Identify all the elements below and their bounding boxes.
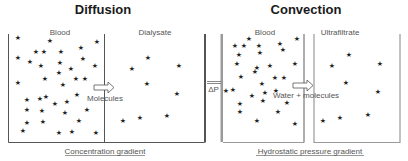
star-icon: ★	[294, 35, 300, 43]
star-icon: ★	[24, 119, 30, 127]
star-icon: ★	[15, 54, 21, 62]
star-icon: ★	[39, 107, 45, 115]
diffusion-blood-solutes: ★★★★★★★★★★★★★★★★★★★★★★★★★★★★★★★★★★★★★	[15, 34, 100, 137]
convection-title: Convection	[271, 2, 342, 17]
star-icon: ★	[272, 74, 278, 82]
star-icon: ★	[15, 34, 21, 42]
diffusion-dialysate-label: Dialysate	[139, 28, 172, 37]
star-icon: ★	[234, 60, 240, 68]
star-icon: ★	[40, 118, 46, 126]
diagram-canvas: Diffusion Blood Dialysate Molecules ★★★★…	[0, 0, 408, 161]
star-icon: ★	[38, 62, 44, 70]
star-icon: ★	[76, 117, 82, 125]
star-icon: ★	[41, 48, 47, 56]
star-icon: ★	[320, 117, 326, 125]
convection-blood-label: Blood	[255, 28, 275, 37]
convection-ultrafiltrate-solutes: ★★★★★★★★	[320, 51, 383, 125]
star-icon: ★	[249, 92, 255, 100]
convection-panel: Convection Blood Ultrafiltrate ΔP Water …	[206, 2, 401, 156]
star-icon: ★	[254, 117, 260, 125]
star-icon: ★	[43, 93, 49, 101]
star-icon: ★	[377, 60, 383, 68]
star-icon: ★	[237, 108, 243, 116]
star-icon: ★	[280, 46, 286, 54]
star-icon: ★	[237, 100, 243, 108]
star-icon: ★	[82, 75, 88, 83]
star-icon: ★	[137, 114, 143, 122]
star-icon: ★	[47, 37, 53, 45]
star-icon: ★	[267, 62, 273, 70]
star-icon: ★	[241, 42, 247, 50]
star-icon: ★	[292, 120, 298, 128]
star-icon: ★	[145, 54, 151, 62]
star-icon: ★	[84, 106, 90, 114]
star-icon: ★	[176, 62, 182, 70]
star-icon: ★	[94, 38, 100, 46]
star-icon: ★	[275, 108, 281, 116]
convection-ultrafiltrate-label: Ultrafiltrate	[321, 28, 360, 37]
convection-blood-solutes: ★★★★★★★★★★★★★★★★★★★★★★★★★★★★★★	[223, 35, 300, 128]
star-icon: ★	[80, 55, 86, 63]
diffusion-flow-label: Molecules	[87, 94, 123, 103]
star-icon: ★	[281, 74, 287, 82]
star-icon: ★	[27, 58, 33, 66]
star-icon: ★	[365, 111, 371, 119]
diffusion-caption: Concentration gradient	[65, 147, 147, 156]
star-icon: ★	[238, 73, 244, 81]
pressure-label: ΔP	[208, 85, 219, 94]
star-icon: ★	[33, 48, 39, 56]
star-icon: ★	[93, 129, 99, 137]
star-icon: ★	[15, 79, 21, 87]
star-icon: ★	[57, 59, 63, 67]
star-icon: ★	[262, 89, 268, 97]
star-icon: ★	[56, 69, 62, 77]
star-icon: ★	[252, 68, 258, 76]
star-icon: ★	[257, 49, 263, 57]
star-icon: ★	[375, 88, 381, 96]
convection-flow-label: Water + molecules	[273, 91, 339, 100]
star-icon: ★	[74, 91, 80, 99]
convection-caption: Hydrostatic pressure gradient	[258, 147, 363, 156]
star-icon: ★	[337, 114, 343, 122]
star-icon: ★	[273, 87, 279, 95]
star-icon: ★	[64, 98, 70, 106]
diffusion-dialysate-solutes: ★★★★★★★★	[120, 54, 182, 125]
star-icon: ★	[20, 127, 26, 135]
star-icon: ★	[78, 44, 84, 52]
star-icon: ★	[56, 129, 62, 137]
star-icon: ★	[24, 96, 30, 104]
star-icon: ★	[232, 42, 238, 50]
star-icon: ★	[260, 97, 266, 105]
star-icon: ★	[236, 51, 242, 59]
star-icon: ★	[346, 51, 352, 59]
star-icon: ★	[292, 60, 298, 68]
star-icon: ★	[120, 117, 126, 125]
star-icon: ★	[129, 65, 135, 73]
star-icon: ★	[230, 86, 236, 94]
star-icon: ★	[58, 48, 64, 56]
star-icon: ★	[60, 81, 66, 89]
diffusion-panel: Diffusion Blood Dialysate Molecules ★★★★…	[9, 2, 205, 156]
star-icon: ★	[144, 80, 150, 88]
star-icon: ★	[73, 75, 79, 83]
arrow-right-icon	[293, 80, 313, 91]
star-icon: ★	[24, 106, 30, 114]
star-icon: ★	[69, 128, 75, 136]
star-icon: ★	[284, 99, 290, 107]
star-icon: ★	[259, 80, 265, 88]
star-icon: ★	[52, 100, 58, 108]
star-icon: ★	[343, 79, 349, 87]
convection-ultrafiltrate-compartment	[314, 34, 400, 143]
star-icon: ★	[329, 62, 335, 70]
star-icon: ★	[62, 109, 68, 117]
star-icon: ★	[42, 75, 48, 83]
star-icon: ★	[174, 90, 180, 98]
star-icon: ★	[223, 87, 229, 95]
star-icon: ★	[92, 62, 98, 70]
star-icon: ★	[164, 112, 170, 120]
star-icon: ★	[68, 65, 74, 73]
diffusion-title: Diffusion	[75, 2, 131, 17]
